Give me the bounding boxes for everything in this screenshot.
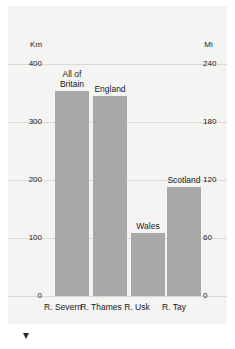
- bar-label-r-usk: Wales: [136, 221, 159, 231]
- left-axis-unit-label: Km: [30, 40, 42, 49]
- triangle-up-icon: [23, 333, 29, 339]
- left-tick-300: 300: [16, 117, 42, 126]
- category-label-r-tay: R. Tay: [150, 302, 198, 312]
- right-tick-60: 60: [203, 233, 229, 242]
- left-tick-400: 400: [16, 59, 42, 68]
- chart-panel: Km Mi 400 300 200 100 0 240 180 120 60 0…: [8, 6, 227, 324]
- right-tick-0: 0: [203, 291, 229, 300]
- right-axis-unit-label: Mi: [204, 40, 213, 49]
- right-tick-180: 180: [203, 117, 229, 126]
- left-tick-200: 200: [16, 175, 42, 184]
- left-tick-100: 100: [16, 233, 42, 242]
- bar-r-usk[interactable]: [131, 233, 165, 296]
- bar-label-r-thames: England: [94, 84, 125, 94]
- bar-label-r-tay: Scotland: [167, 175, 200, 185]
- bar-label-r-severn-line1: All of: [63, 69, 82, 79]
- bar-r-severn[interactable]: [55, 91, 89, 296]
- left-tick-0: 0: [16, 291, 42, 300]
- bar-r-tay[interactable]: [167, 187, 201, 296]
- right-tick-120: 120: [203, 175, 229, 184]
- bar-r-thames[interactable]: [93, 96, 127, 296]
- plot-area: All of Britain England Wales Scotl: [47, 64, 199, 296]
- right-tick-240: 240: [203, 59, 229, 68]
- bar-label-r-severn-line2: Britain: [60, 79, 84, 89]
- bar-group: All of Britain England Wales Scotl: [47, 64, 199, 296]
